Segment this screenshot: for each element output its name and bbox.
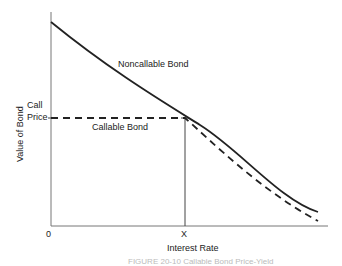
call-label: Call (27, 100, 43, 110)
callable-bond-label: Callable Bond (92, 122, 148, 132)
noncallable-bond-label: Noncallable Bond (118, 59, 189, 69)
price-label: Price (27, 112, 48, 122)
x-axis-label: Interest Rate (167, 243, 219, 253)
x-mark-label: X (181, 229, 187, 239)
figure-caption: FIGURE 20-10 Callable Bond Price-Yield (128, 257, 274, 266)
chart-plot (0, 0, 342, 266)
y-axis-label: Value of Bond (15, 106, 25, 162)
origin-label: 0 (46, 229, 51, 239)
